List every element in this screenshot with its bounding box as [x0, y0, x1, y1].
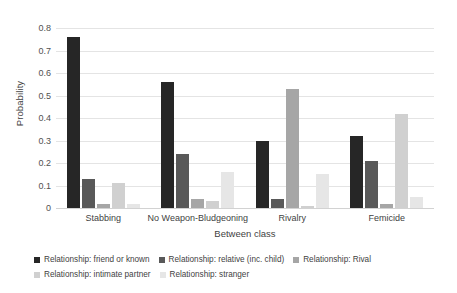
gridline: 0: [56, 208, 434, 209]
bar-chart: Probability 00.10.20.30.40.50.60.70.8 St…: [0, 0, 457, 293]
bar: [206, 201, 219, 208]
y-tick-label: 0.6: [38, 68, 51, 78]
bar: [67, 37, 80, 208]
y-axis-title: Probability: [14, 59, 25, 149]
y-tick-label: 0: [46, 203, 51, 213]
y-tick-label: 0.2: [38, 158, 51, 168]
legend-label: Relationship: stranger: [170, 270, 250, 279]
bar: [316, 174, 329, 208]
legend-item[interactable]: Relationship: intimate partner: [34, 267, 151, 282]
bar: [271, 199, 284, 208]
x-tick-label: No Weapon-Bludgeoning: [148, 213, 248, 223]
bar-group: Femicide: [340, 28, 435, 208]
bar: [410, 197, 423, 208]
y-tick-label: 0.8: [38, 23, 51, 33]
legend-item[interactable]: Relationship: stranger: [160, 267, 250, 282]
legend-label: Relationship: friend or known: [44, 255, 150, 264]
legend-label: Relationship: intimate partner: [44, 270, 151, 279]
x-tick-label: Stabbing: [85, 213, 121, 223]
y-tick-label: 0.4: [38, 113, 51, 123]
bar: [176, 154, 189, 208]
bar: [127, 204, 140, 209]
bar: [395, 114, 408, 209]
y-tick-label: 0.3: [38, 136, 51, 146]
bar: [82, 179, 95, 208]
legend-swatch-icon: [159, 257, 165, 263]
legend-swatch-icon: [293, 257, 299, 263]
bar-group: No Weapon-Bludgeoning: [151, 28, 246, 208]
x-axis-title: Between class: [56, 228, 434, 239]
bar: [350, 136, 363, 208]
legend-label: Relationship: relative (inc. child): [169, 255, 285, 264]
bar: [221, 172, 234, 208]
legend-item[interactable]: Relationship: friend or known: [34, 252, 150, 267]
legend-item[interactable]: Relationship: relative (inc. child): [159, 252, 285, 267]
bar: [256, 141, 269, 209]
bar-groups: StabbingNo Weapon-BludgeoningRivalryFemi…: [56, 28, 434, 208]
bar-group: Rivalry: [245, 28, 340, 208]
bar-group: Stabbing: [56, 28, 151, 208]
y-tick-label: 0.7: [38, 46, 51, 56]
y-tick-label: 0.5: [38, 91, 51, 101]
bar: [365, 161, 378, 208]
bar: [191, 199, 204, 208]
x-tick-label: Femicide: [368, 213, 405, 223]
legend: Relationship: friend or knownRelationshi…: [34, 252, 434, 282]
bar: [380, 204, 393, 209]
x-tick-label: Rivalry: [278, 213, 306, 223]
bar: [112, 183, 125, 208]
bar: [301, 206, 314, 208]
bar: [161, 82, 174, 208]
bar: [286, 89, 299, 208]
legend-swatch-icon: [34, 257, 40, 263]
bar: [97, 204, 110, 209]
y-tick-label: 0.1: [38, 181, 51, 191]
legend-item[interactable]: Relationship: Rival: [293, 252, 371, 267]
legend-swatch-icon: [34, 272, 40, 278]
legend-label: Relationship: Rival: [303, 255, 371, 264]
plot-area: 00.10.20.30.40.50.60.70.8 StabbingNo Wea…: [56, 28, 434, 208]
legend-swatch-icon: [160, 272, 166, 278]
